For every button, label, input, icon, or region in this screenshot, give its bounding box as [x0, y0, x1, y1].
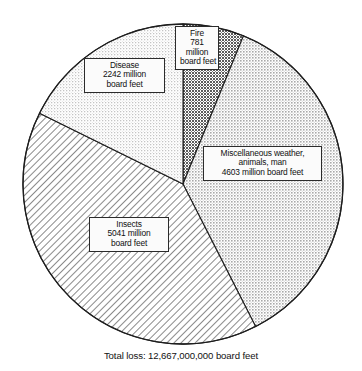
pie-slices [23, 24, 343, 344]
total-loss-caption: Total loss: 12,667,000,000 board feet [0, 350, 362, 361]
slice-label-disease-line3: board feet [89, 80, 160, 89]
slice-label-fire-line4: board feet [180, 57, 214, 66]
slice-label-fire: Fire 781 million board feet [175, 26, 219, 70]
slice-label-insects-line3: board feet [94, 239, 164, 248]
slice-label-misc-line3: 4603 million board feet [208, 168, 317, 177]
slice-label-disease: Disease 2242 million board feet [84, 58, 165, 93]
slice-label-insects: Insects 5041 million board feet [89, 217, 169, 252]
slice-label-miscellaneous: Miscellaneous weather, animals, man 4603… [203, 146, 322, 181]
pie-chart: Fire 781 million board feet Disease 2242… [0, 0, 362, 371]
